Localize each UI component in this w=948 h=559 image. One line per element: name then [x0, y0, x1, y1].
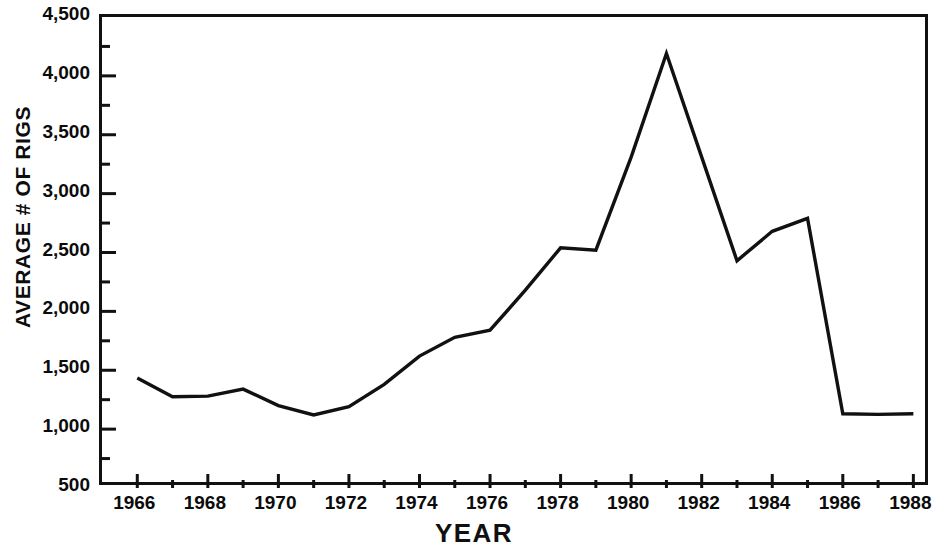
y-tick-label: 3,000 — [4, 180, 90, 202]
x-tick-label: 1986 — [805, 492, 875, 514]
chart-title-clipped — [0, 0, 948, 13]
x-tick-label: 1968 — [170, 492, 240, 514]
data-line-series-0 — [137, 54, 913, 416]
x-tick-label: 1980 — [593, 492, 663, 514]
y-tick-label: 4,500 — [4, 3, 90, 25]
y-tick-label: 2,000 — [4, 297, 90, 319]
y-axis-tick-labels: 4,5004,0003,5003,0002,5002,0001,5001,000… — [0, 14, 90, 485]
x-tick-label: 1974 — [381, 492, 451, 514]
x-tick-label: 1982 — [664, 492, 734, 514]
x-tick-label: 1972 — [311, 492, 381, 514]
x-tick-label: 1976 — [452, 492, 522, 514]
x-axis-ticks — [137, 474, 913, 488]
x-tick-label: 1984 — [734, 492, 804, 514]
x-tick-label: 1970 — [240, 492, 310, 514]
plot-svg — [99, 14, 934, 491]
x-tick-label: 1966 — [99, 492, 169, 514]
y-tick-label: 3,500 — [4, 121, 90, 143]
chart-container: AVERAGE # OF RIGS 4,5004,0003,5003,0002,… — [0, 0, 948, 559]
x-tick-label: 1988 — [875, 492, 945, 514]
y-tick-label: 4,000 — [4, 62, 90, 84]
y-tick-label: 1,500 — [4, 356, 90, 378]
x-axis-tick-labels: 1966196819701972197419761978198019821984… — [0, 492, 948, 518]
y-tick-label: 2,500 — [4, 239, 90, 261]
y-tick-label: 1,000 — [4, 415, 90, 437]
x-axis-title: YEAR — [0, 518, 948, 549]
plot-area — [99, 14, 928, 485]
x-tick-label: 1978 — [523, 492, 593, 514]
y-axis-ticks — [102, 46, 116, 458]
